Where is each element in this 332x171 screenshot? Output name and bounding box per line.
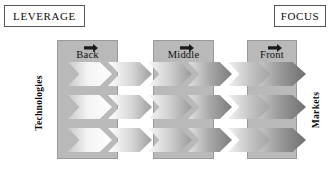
- stage-label-back: Back: [58, 50, 117, 61]
- diagram-canvas: LEVERAGE FOCUS Technologies Markets Back…: [0, 0, 332, 171]
- stage-label-front: Front: [248, 50, 296, 61]
- chevron-arrow: [148, 62, 192, 86]
- chevron-arrow: [188, 62, 232, 86]
- stage-label-middle: Middle: [154, 50, 213, 61]
- chevron-arrow: [108, 128, 152, 152]
- chevron-flow-row: [0, 95, 332, 119]
- chevron-arrow: [188, 95, 232, 119]
- value-chain-diagram: Back Middle Front: [0, 0, 332, 171]
- chevron-arrow: [108, 62, 152, 86]
- chevron-arrow: [68, 128, 112, 152]
- chevron-arrow: [68, 62, 112, 86]
- chevron-arrow: [108, 95, 152, 119]
- chevron-arrow: [148, 128, 192, 152]
- chevron-flow-row: [0, 128, 332, 152]
- chevron-arrow: [188, 128, 232, 152]
- chevron-arrow: [148, 95, 192, 119]
- chevron-flow-row: [0, 62, 332, 86]
- chevron-arrow: [68, 95, 112, 119]
